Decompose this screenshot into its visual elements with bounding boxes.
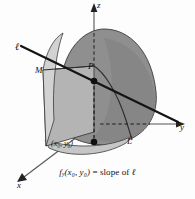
- figure-container: z y x ℓ M P L (x₀, y₀) fy(x₀, y₀) = slop…: [0, 0, 195, 199]
- caption-line-name: ℓ: [132, 167, 136, 177]
- label-curve-L: L: [127, 137, 132, 146]
- caption-relation: = slope of: [92, 167, 129, 177]
- caption-arguments: (x₀, y₀): [64, 167, 90, 177]
- point-P-dot: [91, 78, 98, 85]
- axis-label-z: z: [97, 1, 101, 10]
- axis-label-x: x: [17, 181, 21, 190]
- label-base-point: (x₀, y₀): [51, 140, 73, 148]
- point-base-dot: [91, 139, 98, 146]
- label-point-M: M: [35, 66, 43, 75]
- label-tangent-line-ell: ℓ: [15, 42, 19, 52]
- figure-caption: fy(x₀, y₀) = slope of ℓ: [0, 167, 195, 177]
- axis-label-y: y: [180, 123, 184, 132]
- label-point-P: P: [88, 62, 94, 71]
